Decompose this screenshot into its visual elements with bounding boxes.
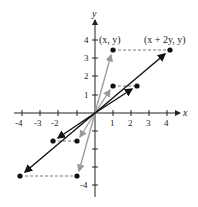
point-original	[110, 83, 115, 88]
point-original	[74, 173, 79, 178]
shear-diagram: x y -4 -3 -2 1 2 3 4	[0, 0, 198, 207]
y-tick-label: 4	[84, 35, 89, 45]
point-transformed	[50, 138, 55, 143]
y-axis-label: y	[91, 8, 97, 19]
x-tick-label: -4	[15, 118, 23, 128]
y-tick-label: 1	[84, 90, 89, 100]
x-tick-label: 4	[164, 118, 169, 128]
transformed-point-label: (x + 2y, y)	[144, 34, 186, 46]
point-original	[110, 47, 115, 52]
y-tick-label: 3	[84, 53, 89, 63]
x-axis-label: x	[182, 107, 188, 118]
x-tick-label: 2	[128, 118, 133, 128]
x-tick-label: 1	[110, 118, 115, 128]
point-transformed	[167, 47, 172, 52]
point-transformed	[134, 83, 139, 88]
y-tick-label: 2	[84, 71, 89, 81]
original-point-label: (x, y)	[99, 34, 121, 46]
x-tick-label: 3	[146, 118, 151, 128]
point-transformed	[17, 173, 22, 178]
point-original	[74, 138, 79, 143]
x-tick-label: -3	[34, 118, 42, 128]
y-tick-label: -4	[80, 180, 88, 190]
x-tick-label: -2	[51, 118, 59, 128]
